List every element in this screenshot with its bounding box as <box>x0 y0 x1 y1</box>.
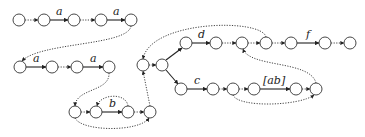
edge-label-a: a <box>113 5 120 18</box>
edge-label-c: c <box>194 74 200 87</box>
edge-label-ab-class: [ab] <box>263 74 286 87</box>
nodes <box>13 14 356 118</box>
edge-label-d: d <box>198 28 205 41</box>
state-node <box>103 61 115 73</box>
state-node <box>90 106 102 118</box>
state-node <box>210 37 222 49</box>
edge-label-b: b <box>109 97 116 110</box>
state-node <box>144 106 156 118</box>
edge-label-f: f <box>305 28 312 41</box>
state-node <box>14 61 26 73</box>
state-node <box>38 14 50 26</box>
state-node <box>248 83 260 95</box>
state-node <box>344 37 356 49</box>
state-node <box>227 83 239 95</box>
state-node <box>310 83 322 95</box>
state-node <box>285 37 297 49</box>
state-node <box>122 106 134 118</box>
state-node <box>137 59 149 71</box>
state-node <box>175 83 187 95</box>
edge-label-a: a <box>56 5 63 18</box>
state-node <box>260 37 272 49</box>
state-node <box>236 37 248 49</box>
state-node <box>71 61 83 73</box>
automaton-diagram: a a a a b d f c [ab] <box>0 0 365 137</box>
state-node <box>68 14 80 26</box>
state-node <box>95 14 107 26</box>
state-node <box>319 37 331 49</box>
edge-label-a: a <box>33 52 40 65</box>
state-node <box>125 14 137 26</box>
state-node <box>156 59 168 71</box>
state-node <box>180 37 192 49</box>
edge-label-a: a <box>90 52 97 65</box>
state-node <box>207 83 219 95</box>
state-node <box>46 61 58 73</box>
state-node <box>13 14 25 26</box>
state-node <box>290 83 302 95</box>
state-node <box>69 106 81 118</box>
